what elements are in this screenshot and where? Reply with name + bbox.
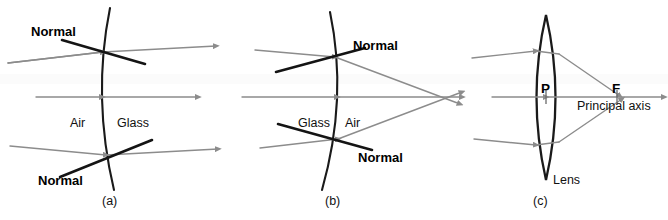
panel-c-principal-axis-label: Principal axis [577,99,651,113]
panel-c-lens-label: Lens [553,173,580,187]
panel-a-normal-top-label: Normal [31,24,76,39]
figure-canvas: Normal Normal Air Glass (a) [0,0,668,220]
panel-b-caption: (b) [325,194,340,208]
panel-a-glass-label: Glass [117,116,149,130]
panel-c-caption: (c) [533,194,548,208]
panel-c-pole-label: P [541,81,550,96]
panel-b-glass-label: Glass [298,116,330,130]
panel-b-normal-top-label: Normal [353,38,398,53]
optics-figure: Normal Normal Air Glass (a) [0,0,668,220]
panel-b-air-label: Air [345,116,360,130]
panel-a-air-label: Air [70,116,85,130]
panel-b-normal-bottom-label: Normal [358,150,403,165]
panel-a-caption: (a) [102,194,117,208]
panel-a-normal-bottom-label: Normal [38,173,83,188]
panel-c-focus-label: F [612,81,620,96]
scan-band [0,74,668,84]
